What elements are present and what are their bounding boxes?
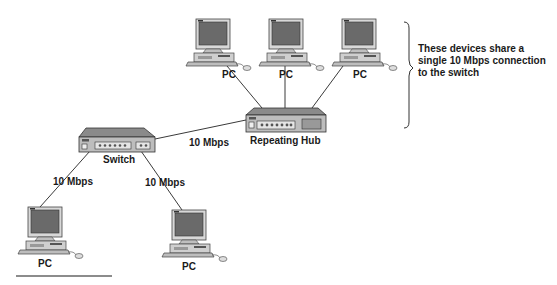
pc-bottom-right-icon xyxy=(162,210,227,262)
brace-icon xyxy=(404,22,413,128)
switch-icon xyxy=(79,128,155,152)
pc-top-left-icon xyxy=(186,19,251,71)
repeating-hub-icon xyxy=(246,108,326,132)
pc-bottom-right-label: PC xyxy=(182,261,196,272)
pc-top-right-icon xyxy=(332,19,397,71)
pc-bottom-left-icon xyxy=(18,207,83,259)
pc-top-center-icon xyxy=(259,19,324,71)
note-line-1: These devices share a xyxy=(418,43,548,55)
note-line-2: single 10 Mbps connection xyxy=(418,55,548,67)
link-switch-hub-label: 10 Mbps xyxy=(189,137,229,148)
pc-top-left-label: PC xyxy=(222,69,236,80)
repeating-hub-label: Repeating Hub xyxy=(250,135,321,146)
link-switch-pc-right-label: 10 Mbps xyxy=(145,177,185,188)
pc-bottom-left-label: PC xyxy=(38,258,52,269)
note-line-3: to the switch xyxy=(418,67,548,79)
switch-label: Switch xyxy=(103,154,135,165)
link-switch-pc-left-label: 10 Mbps xyxy=(53,176,93,187)
shared-connection-note: These devices share a single 10 Mbps con… xyxy=(418,43,548,79)
pc-top-center-label: PC xyxy=(279,69,293,80)
pc-top-right-label: PC xyxy=(353,69,367,80)
